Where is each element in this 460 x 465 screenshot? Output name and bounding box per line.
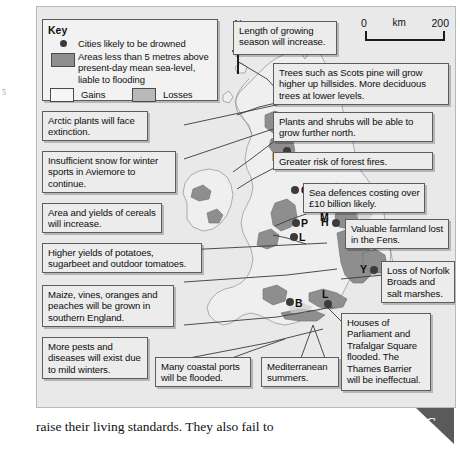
city-dot [286,298,294,306]
city-label: L [299,232,305,243]
key-title: Key [48,24,212,36]
callout-arctic-plants: Arctic plants will face extinction. [42,111,148,141]
callout-sea-defences: Sea defences costing over £10 billion li… [303,183,425,213]
key-row-gains-losses: Gains Losses [48,88,212,102]
city-dot [332,219,340,227]
callout-houses-parliament: Houses of Parliament and Trafalgar Squar… [341,313,431,391]
margin-mark: 5 [2,88,6,97]
page-caption-text: raise their living standards. They also … [36,418,456,435]
flood-swatch-icon [48,51,78,67]
corner-tab-label: C [425,415,435,432]
scale-bar-labels: 0 km 200 [359,17,451,29]
callout-growing-season: Length of growing season will increase. [233,21,337,55]
key-label-gains: Gains [81,89,105,100]
city-label: H [321,217,329,228]
key-row-flood: Areas less than 5 metres above present-d… [48,51,212,85]
callout-coastal-ports: Many coastal ports will be flooded. [155,357,251,387]
callout-mediterranean: Mediterranean summers. [261,357,339,387]
callout-pests-diseases: More pests and diseases will exist due t… [42,337,148,379]
key-cell-losses: Losses [130,88,212,102]
scale-bar-rule [365,31,445,41]
city-dot [292,219,300,227]
city-label: P [301,218,308,229]
callout-scots-pine: Trees such as Scots pine will grow highe… [273,63,449,105]
callout-plants-shrubs: Plants and shrubs will be able to grow f… [273,112,433,142]
callout-aviemore-snow: Insufficient snow for winter sports in A… [42,151,176,193]
callout-potatoes: Higher yields of potatoes, sugarbeet and… [42,243,202,273]
losses-swatch-icon [132,88,156,102]
city-label: L [322,289,328,300]
callout-norfolk-broads: Loss of Norfolk Broads and salt marshes. [381,261,455,303]
climate-change-uk-map-figure: Key Cities likely to be drowned Areas le… [36,6,456,408]
callout-forest-fires: Greater risk of forest fires. [273,152,433,170]
page-corner-tab: C [414,404,456,446]
key-cell-gains: Gains [48,88,130,102]
city-label: B [295,298,303,309]
scale-bar: 0 km 200 [359,17,451,53]
gains-swatch-icon [50,88,74,102]
city-dot [291,186,299,194]
callout-farmland-fens: Valuable farmland lost in the Fens. [345,219,449,249]
key-row-cities: Cities likely to be drowned [48,38,212,49]
key-label-flood: Areas less than 5 metres above present-d… [78,51,212,85]
scale-zero: 0 [361,17,367,29]
city-dot-icon [48,38,78,47]
city-dot [370,266,378,274]
key-label-losses: Losses [163,89,193,100]
map-key: Key Cities likely to be drowned Areas le… [42,19,218,101]
callout-cereals: Area and yields of cereals will increase… [42,203,162,233]
city-dot [324,300,332,308]
callout-maize-vines: Maize, vines, oranges and peaches will b… [42,285,174,327]
city-dot [290,233,298,241]
city-label: Y [360,264,367,275]
scale-max: 200 [431,17,449,29]
key-label-cities: Cities likely to be drowned [78,38,186,49]
scale-unit: km [392,17,405,29]
